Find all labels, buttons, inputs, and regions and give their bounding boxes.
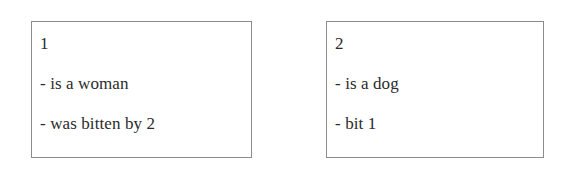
fact-item: - is a dog bbox=[335, 73, 543, 95]
entity-id-label-1: 1 bbox=[40, 33, 251, 55]
fact-list-1: - is a woman - was bitten by 2 bbox=[40, 73, 251, 135]
fact-text: was bitten by 2 bbox=[50, 114, 155, 133]
fact-text: is a woman bbox=[50, 74, 128, 93]
bullet-marker: - bbox=[40, 114, 46, 133]
fact-text: bit 1 bbox=[345, 114, 376, 133]
bullet-marker: - bbox=[40, 74, 46, 93]
fact-list-2: - is a dog - bit 1 bbox=[335, 73, 543, 135]
diagram-canvas: 1 - is a woman - was bitten by 2 2 - is … bbox=[0, 0, 561, 174]
bullet-marker: - bbox=[335, 114, 341, 133]
fact-item: - bit 1 bbox=[335, 113, 543, 135]
entity-box-1: 1 - is a woman - was bitten by 2 bbox=[31, 21, 252, 158]
entity-box-2: 2 - is a dog - bit 1 bbox=[326, 21, 544, 158]
fact-item: - is a woman bbox=[40, 73, 251, 95]
fact-text: is a dog bbox=[345, 74, 399, 93]
entity-id-label-2: 2 bbox=[335, 33, 543, 55]
bullet-marker: - bbox=[335, 74, 341, 93]
fact-item: - was bitten by 2 bbox=[40, 113, 251, 135]
